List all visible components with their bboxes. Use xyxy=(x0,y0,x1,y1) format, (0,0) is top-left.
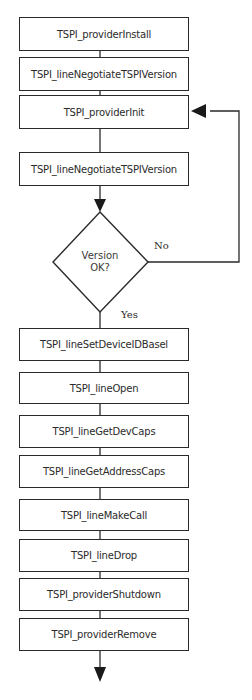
yes-branch-label: Yes xyxy=(121,309,138,320)
step-label: TSPI_lineNegotiateTSPIVersion xyxy=(31,69,177,80)
step-line-get-dev-caps: TSPI_lineGetDevCaps xyxy=(19,415,189,448)
step-line-negotiate-tspi-version-2: TSPI_lineNegotiateTSPIVersion xyxy=(19,152,189,186)
step-label: TSPI_lineDrop xyxy=(71,550,137,561)
step-label: TSPI_lineGetAddressCaps xyxy=(43,466,165,477)
arrowhead-down-end-icon xyxy=(94,667,106,682)
step-line-get-address-caps: TSPI_lineGetAddressCaps xyxy=(19,455,189,488)
arrowhead-down-icon xyxy=(94,199,106,212)
step-provider-shutdown: TSPI_providerShutdown xyxy=(19,578,189,611)
step-label: TSPI_lineSetDeviceIDBasel xyxy=(40,339,168,350)
step-provider-install: TSPI_providerInstall xyxy=(19,17,189,51)
flowchart: TSPI_providerInstall TSPI_lineNegotiateT… xyxy=(0,0,252,700)
step-line-open: TSPI_lineOpen xyxy=(19,372,189,404)
step-label: TSPI_lineMakeCall xyxy=(61,510,147,521)
decision-version-ok: Version OK? xyxy=(70,250,130,274)
step-label: TSPI_providerInstall xyxy=(57,29,151,40)
step-line-make-call: TSPI_lineMakeCall xyxy=(19,499,189,531)
step-provider-remove: TSPI_providerRemove xyxy=(19,618,189,651)
decision-line1: Version xyxy=(70,250,130,262)
decision-line2: OK? xyxy=(70,262,130,274)
step-line-drop: TSPI_lineDrop xyxy=(19,539,189,572)
step-label: TSPI_providerInit xyxy=(64,107,145,118)
step-label: TSPI_lineOpen xyxy=(70,383,139,394)
step-label: TSPI_providerShutdown xyxy=(47,589,161,600)
step-label: TSPI_lineNegotiateTSPIVersion xyxy=(31,164,177,175)
step-provider-init: TSPI_providerInit xyxy=(19,95,189,129)
no-branch-label: No xyxy=(154,240,169,251)
step-label: TSPI_lineGetDevCaps xyxy=(53,426,156,437)
arrowhead-left-icon xyxy=(191,104,206,118)
step-line-set-device-id-base: TSPI_lineSetDeviceIDBasel xyxy=(19,328,189,361)
step-label: TSPI_providerRemove xyxy=(52,629,157,640)
step-line-negotiate-tspi-version-1: TSPI_lineNegotiateTSPIVersion xyxy=(19,57,189,91)
